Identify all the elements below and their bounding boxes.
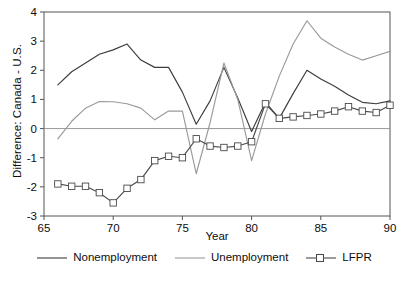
plot-area-wrapper: -3-2-101234 657075808590 xyxy=(0,0,408,240)
chart-figure: Difference: Canada - U.S. -3-2-101234 65… xyxy=(0,0,408,289)
chart-legend: Nonemployment Unemployment LFPR xyxy=(0,252,408,264)
legend-item-unemployment: Unemployment xyxy=(174,252,288,264)
svg-text:-2: -2 xyxy=(27,181,37,193)
svg-text:2: 2 xyxy=(31,64,37,76)
svg-text:1: 1 xyxy=(31,93,37,105)
chart-canvas: -3-2-101234 657075808590 xyxy=(0,0,408,240)
legend-swatch-line-icon xyxy=(36,252,68,264)
legend-swatch-line-icon xyxy=(174,252,206,264)
svg-text:-3: -3 xyxy=(27,210,37,222)
svg-text:0: 0 xyxy=(31,123,37,135)
legend-label-lfpr: LFPR xyxy=(342,252,371,264)
legend-item-lfpr: LFPR xyxy=(305,252,371,264)
svg-text:4: 4 xyxy=(31,6,38,18)
data-series-group xyxy=(55,21,394,206)
y-tick-labels: -3-2-101234 xyxy=(27,6,38,222)
legend-label-unemployment: Unemployment xyxy=(211,252,288,264)
legend-swatch-line-square-icon xyxy=(305,252,337,264)
legend-label-nonemployment: Nonemployment xyxy=(73,252,157,264)
x-axis-label: Year xyxy=(44,230,390,242)
svg-text:-1: -1 xyxy=(27,152,37,164)
legend-item-nonemployment: Nonemployment xyxy=(36,252,157,264)
svg-text:3: 3 xyxy=(31,35,37,47)
axis-ticks xyxy=(40,12,390,220)
